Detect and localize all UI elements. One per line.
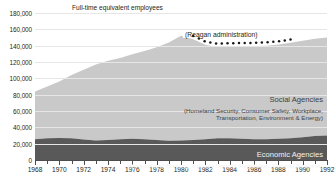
x-axis-tick [47,160,48,164]
reagan-administration-annotation: (Reagan administration) [183,31,260,38]
y-axis-tick-label: 140,000 [10,42,32,49]
x-axis-tick [327,160,328,165]
x-axis-tick [72,160,73,164]
gridline [35,62,327,63]
y-axis-tick-label: 100,000 [10,75,32,82]
social-agencies-title: Social Agencies [269,95,323,104]
x-axis-tick-label: 1972 [76,166,91,173]
chart-header-note: Full-time equivalent employees [72,4,163,11]
y-axis-labels: 020,00040,00060,00080,000100,000120,0001… [0,0,35,160]
x-axis-tick [59,160,60,165]
x-axis-tick [84,160,85,165]
gridline [35,127,327,128]
gridline [35,29,327,30]
economic-agencies-title: Economic Agencies [257,150,323,159]
gridline [35,78,327,79]
x-axis-tick-label: 1968 [28,166,43,173]
y-axis-tick-label: 20,000 [13,140,32,147]
economic-agencies-label: Economic Agencies (Finance and Banking, … [128,142,323,169]
regulatory-staffing-area-chart: Full-time equivalent employees 020,00040… [0,0,335,187]
y-axis-tick-label: 40,000 [13,124,32,131]
economic-agencies-subtitle-1: (Finance and Banking, Industry-Specific … [128,162,323,170]
x-axis-tick-label: 1970 [52,166,67,173]
y-axis-tick-label: 0 [29,157,32,164]
y-axis-tick-label: 60,000 [13,108,32,115]
x-axis-tick [108,160,109,165]
y-axis-tick-label: 160,000 [10,26,32,33]
gridline [35,46,327,47]
y-axis-tick-label: 120,000 [10,59,32,66]
y-axis-tick-label: 180,000 [10,10,32,17]
social-agencies-subtitle-2: Transportation, Environment & Energy) [184,114,323,122]
x-axis-tick [35,160,36,165]
x-axis-tick [120,160,121,164]
y-axis-tick-label: 80,000 [13,91,32,98]
social-agencies-label: Social Agencies (Homeland Security, Cons… [184,87,323,122]
social-agencies-subtitle-1: (Homeland Security, Consumer Safety, Wor… [184,107,323,115]
x-axis-tick-label: 1974 [101,166,116,173]
gridline [35,13,327,14]
x-axis-tick [96,160,97,164]
